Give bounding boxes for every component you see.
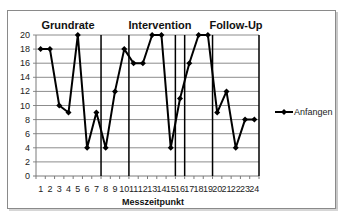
- y-tick-label: 0: [25, 171, 30, 181]
- x-tick-label: 8: [103, 184, 108, 194]
- x-tick-label: 10: [119, 184, 129, 194]
- x-tick-label: 6: [85, 184, 90, 194]
- data-point-marker: [47, 46, 53, 52]
- x-tick-label: 1: [38, 184, 43, 194]
- data-point-marker: [158, 32, 164, 38]
- line-chart: 02468101214161820 1234567891011121314151…: [0, 0, 345, 218]
- y-tick-label: 2: [25, 157, 30, 167]
- x-tick-label: 11: [129, 184, 138, 194]
- x-tick-label: 4: [66, 184, 71, 194]
- data-point-marker: [214, 110, 220, 116]
- y-tick-label: 12: [20, 86, 30, 96]
- y-tick-label: 6: [25, 129, 30, 139]
- data-point-marker: [149, 32, 155, 38]
- data-point-marker: [93, 110, 99, 116]
- legend-marker-icon: [281, 109, 287, 115]
- data-point-marker: [196, 32, 202, 38]
- y-tick-label: 4: [25, 143, 30, 153]
- data-point-marker: [75, 32, 81, 38]
- y-tick-label: 20: [20, 30, 30, 40]
- x-axis-title: Messzeitpunkt: [122, 197, 184, 207]
- x-axis-ticks: 123456789101112131415161718192021222324: [36, 176, 259, 194]
- data-point-marker: [251, 117, 257, 123]
- data-point-marker: [84, 145, 90, 151]
- y-tick-label: 14: [20, 72, 30, 82]
- data-point-marker: [177, 95, 183, 101]
- x-tick-label: 24: [249, 184, 259, 194]
- data-point-marker: [168, 145, 174, 151]
- y-tick-label: 10: [20, 101, 30, 111]
- data-point-marker: [112, 88, 118, 94]
- x-tick-label: 9: [112, 184, 117, 194]
- phase-label-intervention: Intervention: [129, 19, 192, 31]
- data-point-marker: [38, 46, 44, 52]
- phase-label-grundrate: Grundrate: [41, 19, 94, 31]
- y-tick-label: 18: [20, 44, 30, 54]
- data-point-marker: [186, 60, 192, 66]
- data-point-marker: [103, 145, 109, 151]
- y-tick-label: 8: [25, 115, 30, 125]
- x-tick-label: 7: [94, 184, 99, 194]
- x-tick-label: 5: [75, 184, 80, 194]
- x-tick-label: 3: [57, 184, 62, 194]
- data-point-marker: [205, 32, 211, 38]
- data-point-marker: [242, 117, 248, 123]
- y-axis-ticks: 02468101214161820: [20, 30, 30, 181]
- legend: Anfangen: [275, 107, 333, 117]
- data-point-marker: [223, 88, 229, 94]
- x-tick-label: 2: [47, 184, 52, 194]
- data-point-marker: [140, 60, 146, 66]
- data-point-marker: [233, 145, 239, 151]
- phase-label-follow-up: Follow-Up: [209, 19, 262, 31]
- y-tick-label: 16: [20, 58, 30, 68]
- legend-label: Anfangen: [294, 107, 333, 117]
